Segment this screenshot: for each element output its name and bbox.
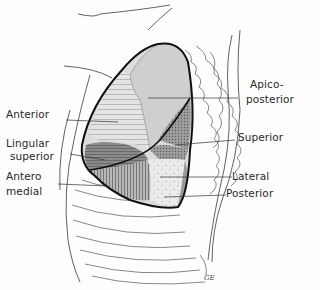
clavicle-line	[64, 66, 112, 78]
label-lingular-superior-line2: superior	[10, 150, 55, 162]
label-superior: Superior	[238, 131, 284, 143]
back-line-2	[212, 30, 240, 262]
back-line-1	[208, 35, 232, 260]
label-apicoposterior-line1: Apico-	[250, 78, 284, 90]
label-anteromedial-line1: Antero	[6, 170, 42, 182]
lung-segments-illustration: Anterior Lingular superior Antero medial…	[0, 0, 320, 290]
label-posterior: Posterior	[226, 187, 274, 199]
front-chest-wall	[66, 75, 90, 282]
label-anterior: Anterior	[6, 108, 50, 120]
label-apicoposterior-line2: posterior	[246, 93, 295, 105]
artist-signature: GE	[204, 274, 215, 282]
label-anteromedial-line2: medial	[6, 185, 42, 197]
label-lateral: Lateral	[232, 170, 269, 182]
shoulder-line	[78, 5, 170, 16]
label-lingular-superior-line1: Lingular	[6, 137, 50, 149]
neck-line	[148, 8, 172, 30]
anterior-rib-curve	[60, 110, 70, 190]
lung	[82, 43, 193, 207]
illustration-canvas: Anterior Lingular superior Antero medial…	[0, 0, 320, 290]
